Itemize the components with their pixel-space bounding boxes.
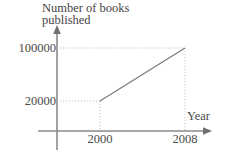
y-axis-title-line-2: published xyxy=(42,14,130,26)
x-tick-label-2008: 2008 xyxy=(163,133,207,145)
x-axis-title: Year xyxy=(187,110,210,122)
y-tick-label-100000: 100000 xyxy=(0,42,56,54)
y-axis-title: Number of books published xyxy=(42,2,130,26)
x-tick-label-2000: 2000 xyxy=(78,133,122,145)
line-chart-figure: Number of books published 100000 20000 2… xyxy=(0,0,228,159)
data-series-line xyxy=(100,48,185,101)
y-tick-label-20000: 20000 xyxy=(0,95,56,107)
